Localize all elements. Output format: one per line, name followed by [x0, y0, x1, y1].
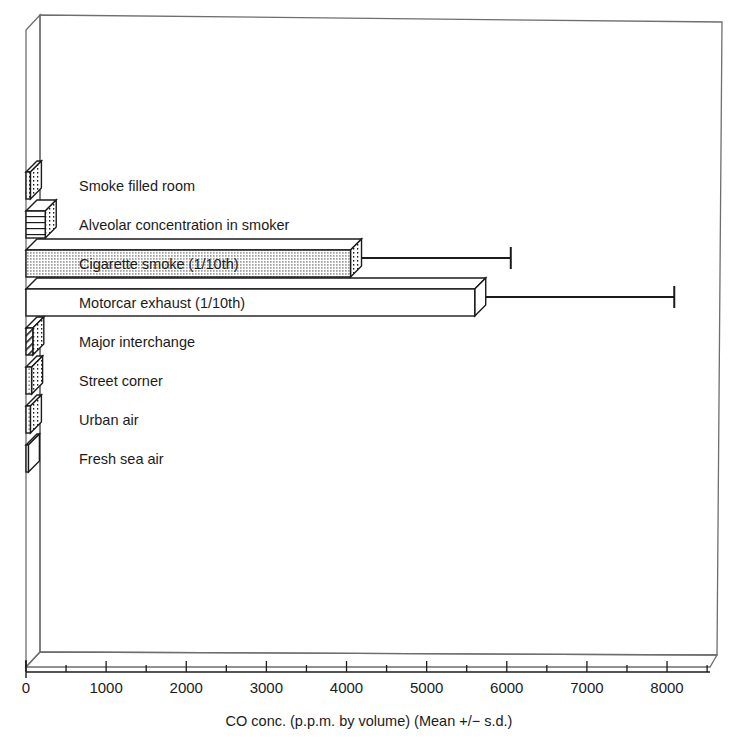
x-tick-label: 6000 [490, 679, 523, 696]
bar-category-label: Fresh sea air [79, 451, 164, 467]
bar [26, 317, 44, 355]
x-axis-title: CO conc. (p.p.m. by volume) (Mean +/− s.… [226, 713, 513, 729]
bar-category-label: Cigarette smoke (1/10th) [79, 256, 239, 272]
bar-labels-group: Smoke filled roomAlveolar concentration … [79, 178, 290, 467]
bar-front-face [26, 445, 28, 472]
bar-front-face [26, 211, 45, 238]
bar-category-label: Smoke filled room [79, 178, 195, 194]
bar-category-label: Motorcar exhaust (1/10th) [79, 295, 245, 311]
x-axis-tick-labels: 010002000300040005000600070008000 [22, 679, 684, 696]
x-axis [26, 660, 710, 678]
x-tick-label: 7000 [570, 679, 603, 696]
x-tick-label: 5000 [410, 679, 443, 696]
x-tick-label: 0 [22, 679, 30, 696]
bar-top-face [26, 278, 486, 289]
bar-front-face [26, 172, 30, 199]
bar-front-face [26, 328, 33, 355]
bar [26, 200, 56, 238]
bar [26, 395, 41, 433]
bar-top-face [26, 239, 362, 250]
frame-floor [26, 652, 717, 667]
x-tick-label: 2000 [170, 679, 203, 696]
bar-category-label: Street corner [79, 373, 163, 389]
co-concentration-bar-chart: 010002000300040005000600070008000 Smoke … [0, 0, 739, 754]
x-tick-label: 4000 [330, 679, 363, 696]
bar-side-face [28, 434, 39, 472]
x-tick-label: 1000 [89, 679, 122, 696]
bar [26, 161, 41, 199]
bar-category-label: Alveolar concentration in smoker [79, 217, 290, 233]
bar-front-face [26, 406, 30, 433]
bar [26, 434, 39, 472]
bar-category-label: Major interchange [79, 334, 195, 350]
x-tick-label: 8000 [650, 679, 683, 696]
chart-container: 010002000300040005000600070008000 Smoke … [0, 0, 739, 754]
bar-front-face [26, 367, 32, 394]
x-tick-label: 3000 [250, 679, 283, 696]
error-bar [362, 247, 511, 269]
bar-category-label: Urban air [79, 412, 139, 428]
error-bar [486, 286, 675, 308]
